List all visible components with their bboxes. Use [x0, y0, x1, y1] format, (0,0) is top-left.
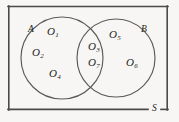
element-label-o2: O2 — [32, 47, 43, 58]
element-label-o5: O5 — [109, 29, 120, 40]
element-base-o3: O — [88, 40, 96, 52]
element-base-o4: O — [49, 67, 57, 79]
set-label-s: S — [152, 104, 157, 114]
element-subscript-o6: 6 — [134, 62, 138, 70]
element-label-o7: O7 — [88, 57, 99, 68]
element-label-o4: O4 — [49, 68, 60, 79]
venn-diagram-figure: A B S O1 O2 O3 O4 O5 O6 O7 — [0, 0, 179, 122]
element-subscript-o7: 7 — [96, 62, 100, 70]
set-label-a: A — [28, 25, 34, 35]
element-subscript-o3: 3 — [96, 46, 100, 54]
element-subscript-o1: 1 — [55, 31, 59, 39]
set-label-b: B — [141, 25, 147, 35]
element-base-o5: O — [109, 28, 117, 40]
element-label-o3: O3 — [88, 41, 99, 52]
element-base-o1: O — [47, 25, 55, 37]
element-base-o2: O — [32, 46, 40, 58]
element-base-o7: O — [88, 56, 96, 68]
element-subscript-o4: 4 — [57, 73, 61, 81]
element-label-o6: O6 — [126, 57, 137, 68]
element-subscript-o2: 2 — [40, 52, 44, 60]
element-subscript-o5: 5 — [117, 34, 121, 42]
element-label-o1: O1 — [47, 26, 58, 37]
element-base-o6: O — [126, 56, 134, 68]
